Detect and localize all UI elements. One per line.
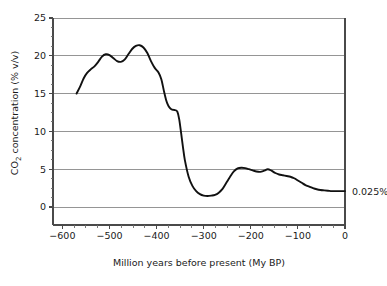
y-tick-label-5: 5 <box>40 164 46 175</box>
chart-background <box>0 0 387 286</box>
x-axis-title: Million years before present (My BP) <box>113 257 285 268</box>
y-tick-label-15: 15 <box>34 88 46 99</box>
x-tick-label--300: −300 <box>191 230 217 241</box>
y-tick-label-20: 20 <box>34 50 46 61</box>
y-tick-label-0: 0 <box>40 201 46 212</box>
x-tick-label--400: −400 <box>144 230 170 241</box>
y-tick-label-25: 25 <box>34 12 46 23</box>
x-tick-label--500: −500 <box>96 230 122 241</box>
chart-figure: 0510152025 −600−500−400−300−200−1000 0.0… <box>0 0 387 286</box>
y-tick-label-10: 10 <box>34 126 46 137</box>
x-tick-label--200: −200 <box>238 230 264 241</box>
x-tick-label-0: 0 <box>342 230 348 241</box>
co2-concentration-line-chart: 0510152025 −600−500−400−300−200−1000 0.0… <box>0 0 387 286</box>
x-tick-label--100: −100 <box>285 230 311 241</box>
x-tick-label--600: −600 <box>49 230 75 241</box>
annotations-group: 0.025% <box>352 186 387 197</box>
present-day-value-label: 0.025% <box>352 186 387 197</box>
